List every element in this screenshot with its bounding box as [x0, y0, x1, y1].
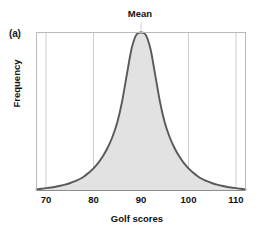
curve-fill [37, 32, 246, 190]
x-tick-label-70: 70 [41, 194, 52, 205]
x-tick-label-100: 100 [181, 194, 197, 205]
density-curve-area [37, 32, 246, 190]
x-tick-label-80: 80 [88, 194, 99, 205]
x-axis-tick-labels: 708090100110 [41, 194, 244, 205]
x-tick-label-110: 110 [228, 194, 243, 205]
x-tick-label-90: 90 [136, 194, 147, 205]
distribution-chart: 708090100110 [0, 0, 262, 236]
figure-panel: (a) Mean Frequency Golf scores 708090100… [0, 0, 262, 236]
